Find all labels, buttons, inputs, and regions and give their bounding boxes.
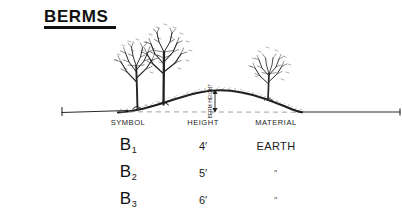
legend-table-wrapper: SYMBOL HEIGHT MATERIAL B1 4′ EARTH — [0, 118, 402, 217]
legend-symbol-cell: B2 — [86, 163, 170, 190]
legend-height-cell: 5′ — [170, 163, 236, 190]
tree-left — [114, 39, 162, 109]
legend-material-cell: ″ — [236, 163, 316, 190]
legend-height-cell: 4′ — [170, 136, 236, 163]
legend-header-height: HEIGHT — [170, 118, 236, 136]
legend-symbol-base: B — [120, 189, 131, 208]
legend-symbol-sub: 2 — [132, 172, 137, 182]
legend-symbol-base: B — [120, 162, 131, 181]
berm-height-label: BERM HEIGHT — [208, 84, 213, 119]
legend-header-material: MATERIAL — [236, 118, 316, 136]
legend-material-cell: ″ — [236, 190, 316, 217]
legend-symbol-base: B — [120, 135, 131, 154]
legend-header-row: SYMBOL HEIGHT MATERIAL — [86, 118, 316, 136]
legend-symbol-cell: B3 — [86, 190, 170, 217]
berm-section-drawing: BERM HEIGHT — [0, 0, 402, 130]
table-row: B1 4′ EARTH — [86, 136, 316, 163]
legend-table: SYMBOL HEIGHT MATERIAL B1 4′ EARTH — [86, 118, 316, 217]
legend-symbol-cell: B1 — [86, 136, 170, 163]
legend-symbol-sub: 1 — [132, 145, 137, 155]
table-row: B3 6′ ″ — [86, 190, 316, 217]
legend-material-cell: EARTH — [236, 136, 316, 163]
drawing-sheet: BERMS — [0, 0, 402, 220]
legend-header-symbol: SYMBOL — [86, 118, 170, 136]
legend-height-cell: 6′ — [170, 190, 236, 217]
table-row: B2 5′ ″ — [86, 163, 316, 190]
legend-symbol-sub: 3 — [132, 199, 137, 209]
